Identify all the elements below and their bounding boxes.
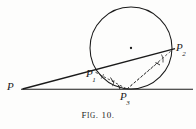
- point-label-p-base: P: [7, 80, 14, 92]
- figure-container: P P1 P2 P3 FIG. 10.: [0, 0, 196, 129]
- figure-caption: FIG. 10.: [0, 110, 196, 120]
- circle-center-dot: [130, 47, 132, 49]
- point-label-p1: P1: [86, 68, 96, 82]
- chord-p1-p3: [96, 72, 128, 89]
- point-label-p2-sub: 2: [182, 50, 186, 58]
- point-label-p1-sub: 1: [92, 76, 96, 84]
- point-label-p3: P3: [120, 91, 130, 105]
- point-label-p2: P2: [176, 42, 186, 56]
- point-label-p: P: [7, 81, 14, 92]
- caption-smallcaps: IG: [87, 112, 96, 120]
- chord-p3-inner: [127, 61, 161, 90]
- caption-suffix: . 10.: [96, 110, 115, 120]
- point-label-p3-sub: 3: [126, 99, 130, 107]
- tick-p1-p3: [111, 78, 114, 83]
